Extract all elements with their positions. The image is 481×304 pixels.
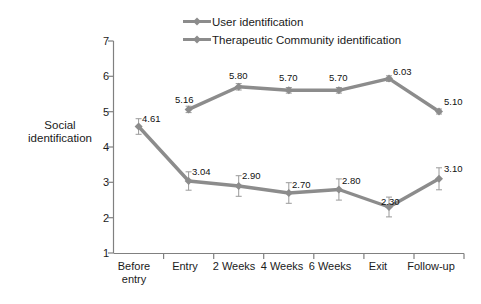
data-label-user-exit: 2.30 — [381, 196, 400, 207]
x-axis-ticks — [164, 254, 464, 260]
chart-figure: Social identification 7 6 5 4 3 2 1 Befo… — [0, 0, 481, 304]
data-label-tc-2-weeks: 5.80 — [229, 70, 248, 81]
data-label-user-2-weeks: 2.90 — [242, 170, 261, 181]
data-label-user-6-weeks: 2.80 — [342, 175, 361, 186]
series-tc-identification — [185, 75, 443, 116]
data-label-tc-follow-up: 5.10 — [444, 96, 463, 107]
data-label-user-4-weeks: 2.70 — [292, 179, 311, 190]
data-label-tc-6-weeks: 5.70 — [329, 72, 348, 83]
data-label-user-follow-up: 3.10 — [444, 163, 463, 174]
data-label-tc-4-weeks: 5.70 — [279, 72, 298, 83]
plot-area — [0, 0, 481, 304]
series-line-tc-identification — [189, 79, 439, 112]
data-label-user-entry: 3.04 — [192, 166, 211, 177]
y-axis-ticks — [108, 41, 114, 253]
data-label-user-before-entry: 4.61 — [142, 113, 161, 124]
data-label-tc-exit: 6.03 — [393, 66, 412, 77]
data-label-tc-entry: 5.16 — [175, 94, 194, 105]
